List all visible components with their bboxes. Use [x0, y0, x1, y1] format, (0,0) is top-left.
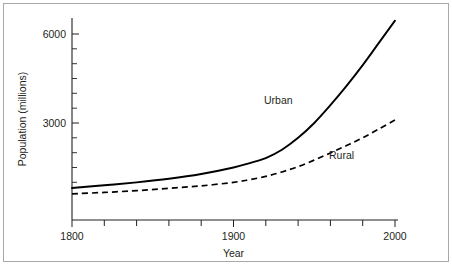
x-axis-title: Year	[223, 247, 245, 259]
urban-series-line	[72, 21, 395, 188]
x-tick-label-1900: 1900	[222, 230, 246, 242]
y-tick-label-6000: 6000	[43, 28, 67, 40]
y-tick-label-3000: 3000	[43, 117, 67, 129]
chart-figure: 6000 3000 1800 1900 2000 Year Population…	[0, 0, 452, 265]
x-tick-label-2000: 2000	[383, 230, 407, 242]
urban-series-label: Urban	[264, 94, 293, 106]
x-tick-label-1800: 1800	[60, 230, 84, 242]
population-line-chart: 6000 3000 1800 1900 2000 Year Population…	[0, 0, 452, 265]
y-axis-title: Population (millions)	[16, 72, 28, 167]
rural-series-label: Rural	[329, 149, 354, 161]
